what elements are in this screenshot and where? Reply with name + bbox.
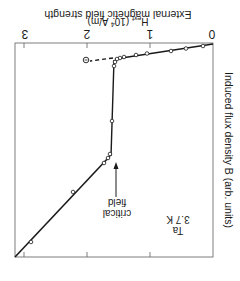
tick-label-3: 3 <box>21 27 28 41</box>
tick-label-1: 1 <box>146 27 153 41</box>
critical-field-label-line2: critical <box>103 208 131 219</box>
x-axis-ticks-bottom <box>24 252 150 257</box>
x-axis-ticks-top <box>24 43 150 48</box>
flux-density-chart: 0 1 2 3 External magnetic field strength… <box>0 0 240 281</box>
outlier-marker <box>83 57 89 63</box>
tick-label-0: 0 <box>208 27 215 41</box>
tick-label-2: 2 <box>83 27 90 41</box>
sample-label-element: Ta <box>172 225 183 236</box>
series-line-vertical <box>111 60 114 156</box>
x-axis-units: Hext (104 A/m) <box>87 15 148 28</box>
series-line-dashed <box>90 58 113 61</box>
y-axis-title: Induced flux density B (arb. units) <box>223 72 235 228</box>
critical-field-label-line1: field <box>108 197 126 208</box>
svg-text:Hext (104 A/m): Hext (104 A/m) <box>87 15 148 28</box>
critical-field-arrow <box>114 162 119 197</box>
series-line-upper <box>115 44 213 59</box>
sample-label-temp: 3.7 K <box>166 214 190 225</box>
